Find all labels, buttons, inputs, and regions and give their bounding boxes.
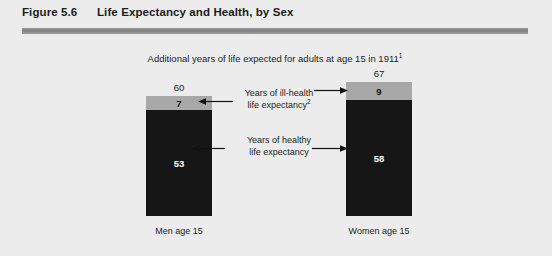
chart-subtitle-text: Additional years of life expected for ad… [148,53,399,64]
arrow-left-icon-ill-health [198,97,234,106]
category-label-women: Women age 15 [324,226,434,236]
annotation-ill-health-line2: life expectancy [247,100,307,110]
bar-segment-healthy-men: 53 [146,110,212,216]
figure-container: Figure 5.6 Life Expectancy and Health, b… [0,0,552,256]
figure-title: Life Expectancy and Health, by Sex [97,6,293,18]
bar-segment-healthy-value-women: 58 [374,153,385,164]
arrow-right-icon-ill-health [314,86,348,95]
arrow-right-icon-healthy [312,144,348,153]
arrow-left-icon-healthy [192,144,226,153]
bar-segment-ill-health-value-women: 9 [376,86,381,97]
bar-total-label-women: 67 [346,68,412,79]
category-label-men: Men age 15 [124,226,234,236]
chart-plot-area: Additional years of life expected for ad… [22,42,528,242]
chart-subtitle: Additional years of life expected for ad… [22,53,528,64]
header-rule [22,28,528,34]
bar-segment-healthy-women: 58 [346,100,412,216]
bar-segment-ill-health-value-men: 7 [176,98,181,109]
annotation-ill-health-footnote-marker: 2 [307,98,311,105]
figure-header: Figure 5.6 Life Expectancy and Health, b… [0,0,552,28]
figure-number: Figure 5.6 [22,6,77,18]
chart-subtitle-footnote-marker: 1 [399,52,403,59]
bar-segment-healthy-value-men: 53 [174,158,185,169]
